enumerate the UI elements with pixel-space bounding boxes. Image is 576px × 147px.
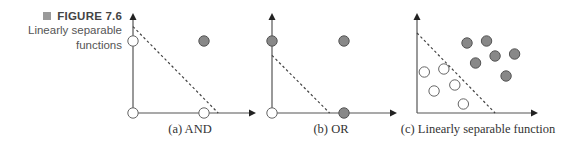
panel-caption: (b) OR [313, 122, 349, 136]
panel-caption: (a) AND [168, 122, 211, 136]
open-data-point [419, 67, 429, 77]
filled-data-point [462, 38, 472, 48]
filled-data-point [199, 36, 209, 46]
filled-data-point [470, 58, 480, 68]
open-data-point [458, 99, 468, 109]
x-axis-arrow-icon [249, 110, 256, 117]
panel-caption: (c) Linearly separable function [401, 122, 556, 136]
filled-data-point [339, 36, 349, 46]
filled-data-point [509, 49, 519, 59]
filled-data-point [339, 108, 349, 118]
separating-line [272, 55, 330, 113]
open-data-point [429, 86, 439, 96]
x-axis-arrow-icon [531, 110, 538, 117]
filled-data-point [267, 36, 277, 46]
filled-data-point [490, 51, 500, 61]
open-data-point [267, 108, 277, 118]
filled-data-point [501, 71, 511, 81]
open-data-point [199, 108, 209, 118]
y-axis-arrow-icon [269, 13, 276, 20]
open-data-point [128, 36, 138, 46]
figure-diagram: (a) AND(b) OR(c) Linearly separable func… [0, 0, 576, 147]
y-axis-arrow-icon [130, 13, 137, 20]
open-data-point [439, 64, 449, 74]
open-data-point [128, 108, 138, 118]
x-axis-arrow-icon [390, 110, 397, 117]
filled-data-point [481, 36, 491, 46]
open-data-point [450, 80, 460, 90]
y-axis-arrow-icon [414, 13, 421, 20]
